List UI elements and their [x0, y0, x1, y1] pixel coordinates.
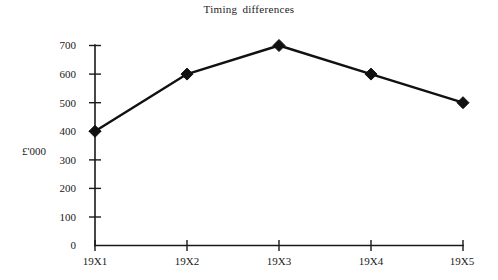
- data-point-19x1-400: [89, 125, 101, 137]
- chart-plot-area: [0, 0, 498, 280]
- x-axis: [95, 240, 463, 251]
- data-point-19x4-600: [365, 68, 377, 80]
- data-point-19x3-700: [273, 40, 285, 52]
- data-point-19x5-500: [457, 97, 469, 109]
- series-markers: [89, 40, 469, 138]
- data-series-timing-differences: [89, 40, 469, 138]
- chart-page: Timing differences £'000 700 600 500 400…: [0, 0, 498, 280]
- y-axis: [89, 45, 101, 246]
- series-line-timing-differences: [95, 46, 463, 132]
- data-point-19x2-600: [181, 68, 193, 80]
